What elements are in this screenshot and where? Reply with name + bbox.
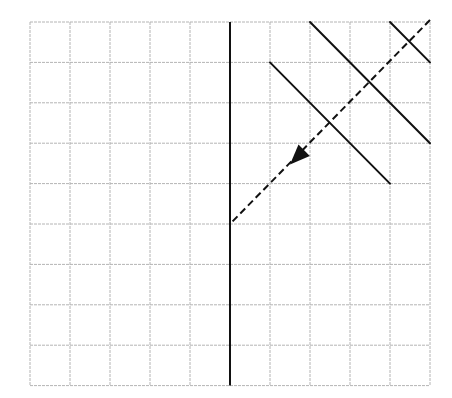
arrowhead-icon (290, 145, 310, 165)
arrowhead-triangle (290, 145, 310, 165)
diagonal-short (390, 22, 430, 62)
diagram-canvas (0, 0, 452, 398)
grid-diagram (0, 0, 452, 398)
